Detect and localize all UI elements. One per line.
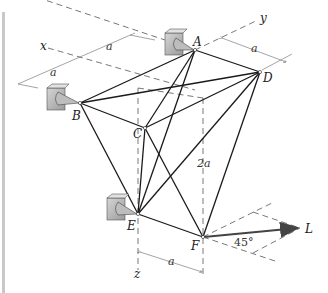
label-E: E: [126, 219, 136, 233]
joint-D: [258, 70, 261, 73]
member-DF: [203, 72, 260, 237]
support-B: [47, 84, 79, 110]
dim-y-a: a: [251, 42, 258, 55]
space-truss-diagram: A B C D E F L x y z a a a 2a a 45°: [0, 0, 328, 293]
member-DE: [138, 72, 260, 214]
label-D: D: [262, 71, 273, 85]
dim-x-a-upper: a: [106, 40, 113, 53]
support-E: [107, 194, 137, 220]
label-z-axis: z: [133, 267, 141, 281]
support-A: [165, 29, 194, 55]
label-x-axis: x: [40, 39, 47, 53]
x-dim-ext-right: [130, 35, 155, 40]
constr-line-2: [253, 212, 300, 228]
label-F: F: [190, 239, 200, 253]
joint-E: [136, 212, 139, 215]
y-axis-line: [195, 20, 258, 50]
joint-F: [201, 235, 204, 238]
member-CF: [145, 128, 203, 237]
dim-height-2a: 2a: [196, 157, 211, 170]
label-A: A: [192, 35, 202, 49]
label-L: L: [304, 222, 313, 236]
label-y-axis: y: [259, 11, 267, 25]
joint-B: [78, 101, 81, 104]
y-dim-ext: [262, 54, 292, 70]
label-C: C: [133, 127, 142, 141]
label-B: B: [71, 109, 81, 123]
x-dim-ext-left: [18, 84, 38, 88]
x-dimension-line: [18, 33, 135, 84]
joint-C: [143, 126, 146, 129]
member-BC: [80, 103, 145, 128]
figure-frame: A B C D E F L x y z a a a 2a a 45°: [0, 0, 328, 293]
dim-bottom-a: a: [168, 255, 175, 268]
dim-x-a-lower: a: [50, 66, 57, 79]
angle-45-label: 45°: [234, 236, 254, 249]
member-BD: [80, 72, 260, 103]
